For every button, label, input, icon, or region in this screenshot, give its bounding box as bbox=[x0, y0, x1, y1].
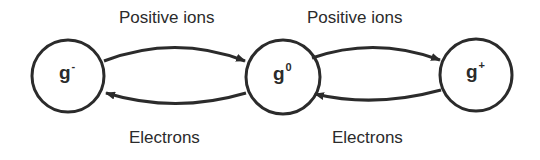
edge-label-electrons-right: Electrons bbox=[332, 128, 403, 148]
arrow-electrons-right bbox=[315, 90, 441, 100]
node-g-zero-label: g0 bbox=[273, 63, 292, 85]
diagram-canvas bbox=[0, 0, 540, 160]
edge-label-positive-ions-left: Positive ions bbox=[119, 8, 214, 28]
node-g-plus-label: g+ bbox=[466, 61, 485, 83]
arrow-positive-ions-left bbox=[104, 48, 245, 62]
node-g-minus-label: g- bbox=[59, 62, 75, 84]
arrow-positive-ions-right bbox=[312, 47, 440, 60]
edge-label-positive-ions-right: Positive ions bbox=[307, 8, 402, 28]
arrow-electrons-left bbox=[106, 93, 246, 104]
edge-label-electrons-left: Electrons bbox=[129, 128, 200, 148]
